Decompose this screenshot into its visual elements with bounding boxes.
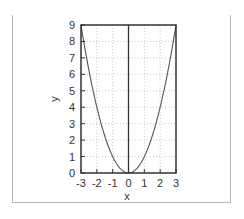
x-tick-label: 2 bbox=[157, 177, 163, 189]
x-tick-label: 1 bbox=[141, 177, 147, 189]
y-tick-label: 7 bbox=[69, 52, 75, 64]
x-tick-label: -1 bbox=[108, 177, 118, 189]
y-tick-label: 3 bbox=[69, 118, 75, 130]
y-tick-label: 6 bbox=[69, 68, 75, 80]
y-tick-label: 8 bbox=[69, 35, 75, 47]
x-tick-label: -3 bbox=[76, 177, 86, 189]
y-axis-label: y bbox=[48, 96, 60, 102]
x-tick-label: 0 bbox=[125, 177, 131, 189]
y-tick-label: 1 bbox=[69, 151, 75, 163]
parabola-chart: -3-2-10123 0123456789 x y bbox=[0, 0, 244, 219]
x-tick-labels: -3-2-10123 bbox=[76, 177, 179, 189]
y-tick-labels: 0123456789 bbox=[69, 19, 75, 179]
x-tick-label: -2 bbox=[92, 177, 102, 189]
y-tick-label: 4 bbox=[69, 101, 75, 113]
y-tick-label: 5 bbox=[69, 85, 75, 97]
x-tick-label: 3 bbox=[173, 177, 179, 189]
x-axis-label: x bbox=[124, 190, 130, 202]
y-tick-label: 0 bbox=[69, 167, 75, 179]
y-tick-label: 9 bbox=[69, 19, 75, 31]
y-tick-label: 2 bbox=[69, 134, 75, 146]
